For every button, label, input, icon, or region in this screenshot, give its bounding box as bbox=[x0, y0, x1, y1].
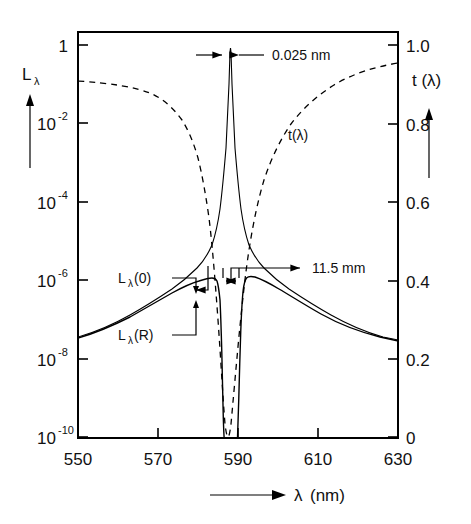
right-tick-label-3: 0.4 bbox=[406, 273, 430, 292]
left-axis-title-main: L bbox=[22, 65, 31, 84]
left-tick-exp-1: -2 bbox=[58, 110, 68, 122]
x-axis-title-unit: (nm) bbox=[310, 486, 345, 505]
right-tick-label-5: 0 bbox=[406, 429, 415, 448]
left-tick-label-1: 10 bbox=[37, 115, 56, 134]
left-tick-exp-5: -10 bbox=[58, 424, 74, 436]
left-tick-exp-4: -8 bbox=[58, 346, 68, 358]
annotation-lr-main: L bbox=[118, 327, 126, 343]
annotation-lr-tail: (R) bbox=[134, 327, 153, 343]
left-tick-exp-3: -6 bbox=[58, 267, 68, 279]
annotation-separation-label: 11.5 mm bbox=[312, 260, 365, 276]
x-tick-label-1: 570 bbox=[144, 450, 172, 469]
annotation-linewidth-label: 0.025 nm bbox=[272, 47, 330, 63]
right-tick-label-2: 0.6 bbox=[406, 194, 430, 213]
figure-container: 1 10 -2 10 -4 10 -6 10 -8 10 -10 1.0 0.8… bbox=[0, 0, 471, 524]
x-axis-title-symbol: λ bbox=[294, 486, 303, 505]
x-tick-label-3: 610 bbox=[304, 450, 332, 469]
left-tick-label-5: 10 bbox=[37, 429, 56, 448]
left-tick-label-3: 10 bbox=[37, 272, 56, 291]
x-tick-label-4: 630 bbox=[384, 450, 412, 469]
canvas-background bbox=[0, 0, 471, 524]
x-tick-label-0: 550 bbox=[64, 450, 92, 469]
annotation-l0-tail: (0) bbox=[134, 270, 151, 286]
right-tick-label-0: 1.0 bbox=[406, 37, 430, 56]
x-tick-label-2: 590 bbox=[224, 450, 252, 469]
right-axis-title-label: t (λ) bbox=[412, 71, 441, 90]
left-tick-label-2: 10 bbox=[37, 194, 56, 213]
right-tick-label-4: 0.2 bbox=[406, 351, 430, 370]
left-tick-exp-2: -4 bbox=[58, 189, 68, 201]
annotation-l0-main: L bbox=[118, 270, 126, 286]
annotation-t-lambda-label: t(λ) bbox=[288, 127, 308, 143]
left-tick-label-4: 10 bbox=[37, 351, 56, 370]
left-axis-title-sub: λ bbox=[34, 75, 40, 87]
annotation-lr-sub: λ bbox=[128, 335, 133, 346]
left-tick-label-0: 1 bbox=[59, 37, 68, 56]
chart-svg: 1 10 -2 10 -4 10 -6 10 -8 10 -10 1.0 0.8… bbox=[0, 0, 471, 524]
annotation-l0-sub: λ bbox=[128, 278, 133, 289]
